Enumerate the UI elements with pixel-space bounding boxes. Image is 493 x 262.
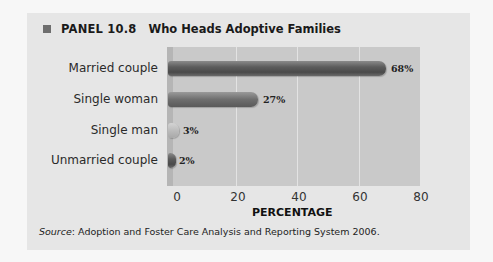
panel-title-row: PANEL 10.8 Who Heads Adoptive Families <box>43 21 341 37</box>
chart-title: Who Heads Adoptive Families <box>148 22 340 36</box>
source-note: Source: Adoption and Foster Care Analysi… <box>39 226 380 237</box>
chart-panel: PANEL 10.8 Who Heads Adoptive Families M… <box>27 13 470 250</box>
value-label-single-woman: 27% <box>263 92 285 107</box>
square-bullet-icon <box>43 25 51 33</box>
category-label-single-woman: Single woman <box>8 92 158 106</box>
bar-married-couple <box>168 61 386 76</box>
category-label-single-man: Single man <box>8 123 158 137</box>
category-label-unmarried-couple: Unmarried couple <box>8 153 158 167</box>
x-tick-0: 0 <box>173 190 181 204</box>
x-tick-20: 20 <box>230 190 245 204</box>
x-tick-80: 80 <box>413 190 428 204</box>
bar-unmarried-couple <box>168 153 176 168</box>
x-axis-label: PERCENTAGE <box>252 206 333 219</box>
value-label-married-couple: 68% <box>391 61 413 76</box>
panel-number: PANEL 10.8 <box>61 22 136 36</box>
bar-single-woman <box>168 92 258 107</box>
value-label-unmarried-couple: 2% <box>179 153 195 168</box>
source-prefix: Source <box>39 226 72 237</box>
x-tick-40: 40 <box>291 190 306 204</box>
category-label-married-couple: Married couple <box>8 61 158 75</box>
value-label-single-man: 3% <box>183 123 199 138</box>
source-text: : Adoption and Foster Care Analysis and … <box>72 226 380 237</box>
x-tick-60: 60 <box>352 190 367 204</box>
